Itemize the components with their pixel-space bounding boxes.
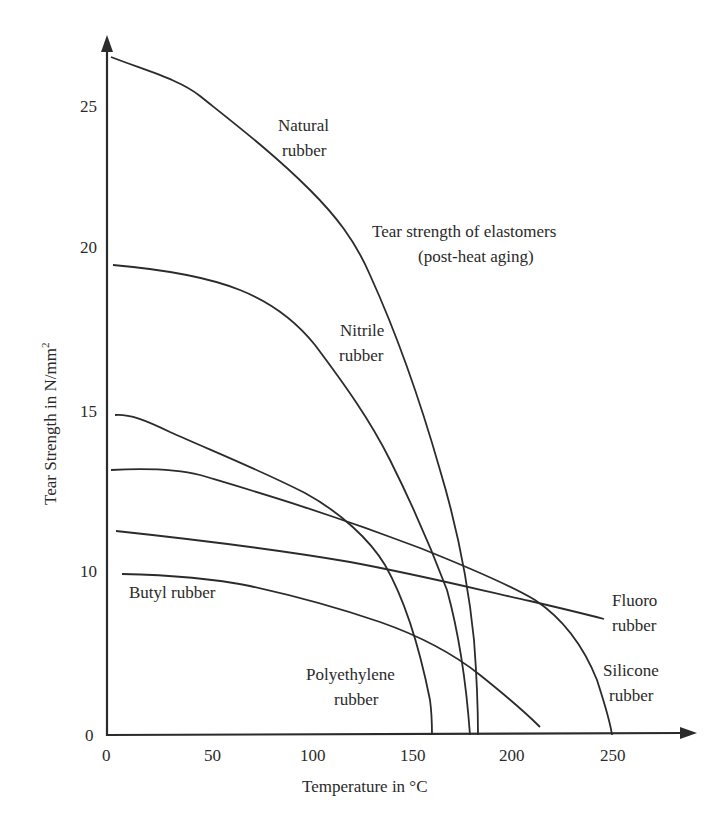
x-axis-title: Temperature in °C bbox=[302, 777, 428, 796]
chart-title: Tear strength of elastomers bbox=[372, 222, 556, 241]
silicone-rubber-label-line2: rubber bbox=[609, 686, 654, 705]
y-tick-0: 0 bbox=[85, 726, 94, 745]
natural-rubber-label-line2: rubber bbox=[282, 141, 327, 160]
chart-subtitle: (post-heat aging) bbox=[418, 247, 534, 266]
x-tick-200: 200 bbox=[499, 746, 525, 765]
polyethylene-rubber-label-line1: Polyethylene bbox=[306, 665, 395, 684]
fluoro-rubber-label-line2: rubber bbox=[612, 616, 657, 635]
y-axis-title-main: Tear Strength in N/mm bbox=[41, 348, 60, 505]
natural-rubber-label-line1: Natural bbox=[278, 116, 329, 135]
x-tick-250: 250 bbox=[600, 746, 626, 765]
y-axis-arrow-icon bbox=[101, 35, 113, 52]
y-tick-20: 20 bbox=[80, 238, 97, 257]
x-tick-50: 50 bbox=[204, 746, 221, 765]
y-axis-title: Tear Strength in N/mm2 bbox=[39, 343, 60, 505]
tear-strength-chart: 25 20 15 10 0 0 50 100 150 200 250 Tempe… bbox=[0, 0, 704, 829]
x-tick-100: 100 bbox=[300, 746, 326, 765]
nitrile-rubber-curve bbox=[113, 265, 470, 735]
x-tick-0: 0 bbox=[102, 746, 111, 765]
silicone-rubber-label-line1: Silicone bbox=[603, 661, 659, 680]
polyethylene-rubber-label-line2: rubber bbox=[334, 690, 379, 709]
nitrile-rubber-label-line1: Nitrile bbox=[340, 321, 384, 340]
y-tick-15: 15 bbox=[80, 402, 97, 421]
x-axis-arrow-icon bbox=[680, 727, 697, 739]
nitrile-rubber-label-line2: rubber bbox=[339, 346, 384, 365]
y-axis-title-superscript: 2 bbox=[39, 343, 51, 349]
fluoro-rubber-curve bbox=[116, 531, 604, 619]
fluoro-rubber-label-line1: Fluoro bbox=[612, 591, 657, 610]
x-tick-150: 150 bbox=[400, 746, 426, 765]
y-tick-25: 25 bbox=[80, 97, 97, 116]
y-tick-10: 10 bbox=[80, 562, 97, 581]
butyl-rubber-label: Butyl rubber bbox=[129, 583, 216, 602]
x-axis bbox=[106, 733, 684, 735]
